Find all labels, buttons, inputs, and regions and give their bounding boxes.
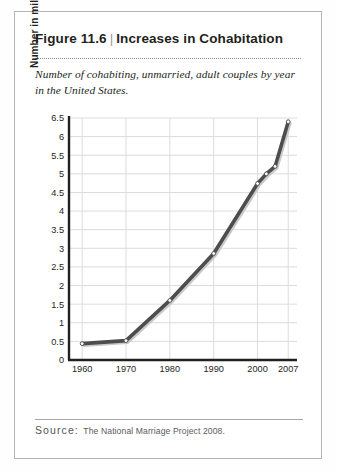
data-point-marker [264, 172, 268, 176]
source-label: Source: [35, 424, 79, 436]
figure-card-inner: Figure 11.6|Increases in Cohabitation Nu… [15, 12, 321, 458]
y-tick-label: 3.5 [51, 225, 64, 235]
y-tick-label: 2.5 [51, 263, 64, 273]
y-tick-label: 6.5 [51, 114, 64, 124]
figure-subtitle: Number of cohabiting, unmarried, adult c… [35, 67, 301, 98]
source-line: Source: The National Marriage Project 20… [35, 420, 305, 438]
chart-area: Number in millions 00.511.522.533.544.55… [35, 110, 303, 382]
data-point-marker [256, 182, 260, 186]
dotted-separator [35, 57, 301, 59]
y-tick-label: 1.5 [51, 300, 64, 310]
figure-page: Figure 11.6|Increases in Cohabitation Nu… [0, 0, 337, 471]
line-chart-plot: 00.511.522.533.544.555.566.5196019701980… [35, 110, 303, 382]
y-tick-label: 4 [59, 207, 64, 217]
source-text: The National Marriage Project 2008. [83, 426, 225, 436]
data-point-marker [80, 342, 84, 346]
data-point-marker [286, 120, 290, 124]
x-tick-label: 1970 [116, 364, 136, 374]
figure-card: Figure 11.6|Increases in Cohabitation Nu… [14, 11, 322, 459]
x-tick-label: 1990 [203, 364, 223, 374]
data-point-marker [212, 252, 216, 256]
y-tick-label: 6 [59, 132, 64, 142]
figure-number: Figure 11.6 [35, 31, 107, 46]
y-tick-label: 2 [59, 281, 64, 291]
y-tick-label: 5.5 [51, 151, 64, 161]
x-tick-label: 2000 [247, 364, 267, 374]
y-tick-label: 0.5 [51, 337, 64, 347]
data-line-shadow [84, 124, 290, 346]
y-tick-label: 1 [59, 318, 64, 328]
y-tick-label: 5 [59, 170, 64, 180]
figure-title: Figure 11.6|Increases in Cohabitation [35, 30, 301, 48]
data-point-marker [168, 299, 172, 303]
x-tick-label: 1980 [160, 364, 180, 374]
figure-title-text: Increases in Cohabitation [116, 31, 283, 46]
title-divider: | [107, 31, 117, 46]
x-tick-label: 1960 [72, 364, 92, 374]
data-point-marker [273, 165, 277, 169]
y-tick-label: 4.5 [51, 188, 64, 198]
x-tick-label: 2007 [278, 364, 298, 374]
y-tick-label: 0 [59, 356, 64, 366]
y-tick-label: 3 [59, 244, 64, 254]
data-point-marker [124, 339, 128, 343]
